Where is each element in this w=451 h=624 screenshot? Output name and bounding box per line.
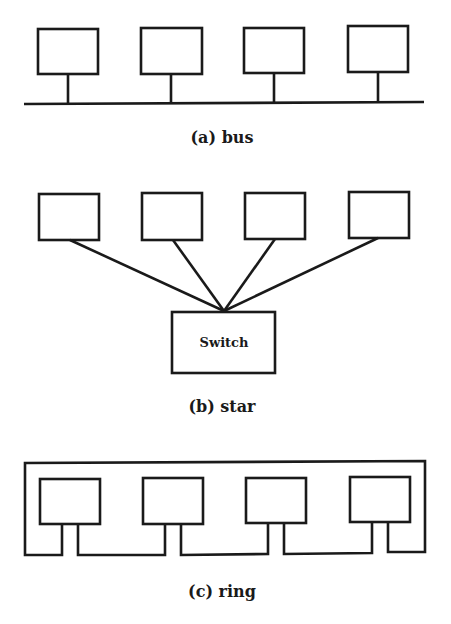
star-link-4	[224, 238, 378, 311]
bus-caption: (a) bus	[191, 128, 254, 147]
network-topologies-figure: Switch (a) bus (b) star (c) ring	[0, 0, 451, 624]
ring-node-2	[143, 478, 203, 524]
ring-link-2-3	[181, 523, 268, 555]
ring-node-4	[350, 477, 410, 522]
star-link-1	[70, 240, 224, 311]
ring-node-1	[40, 479, 100, 524]
ring-node-3	[246, 478, 306, 523]
star-node-4	[349, 192, 409, 238]
ring-link-1-2	[78, 524, 165, 555]
bus-node-4	[348, 26, 408, 72]
bus-node-2	[141, 28, 202, 74]
ring-caption: (c) ring	[188, 582, 256, 601]
star-caption: (b) star	[188, 397, 256, 416]
bus-diagram	[24, 26, 424, 104]
ring-link-3-4	[284, 522, 372, 554]
star-node-3	[245, 193, 305, 239]
ring-outer-loop	[25, 461, 425, 555]
star-node-1	[39, 194, 99, 240]
bus-backbone	[24, 102, 424, 104]
bus-node-1	[38, 29, 98, 74]
ring-diagram	[25, 461, 425, 555]
switch-label: Switch	[200, 335, 249, 350]
bus-node-3	[244, 28, 304, 73]
star-node-2	[142, 193, 202, 240]
